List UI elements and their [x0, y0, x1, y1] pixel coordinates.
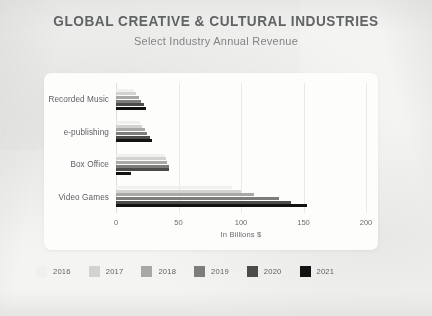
bar-group: Video Games — [116, 181, 366, 214]
legend-swatch — [89, 266, 100, 277]
legend-item[interactable]: 2019 — [194, 266, 229, 277]
bar — [116, 92, 136, 95]
bar — [116, 172, 131, 175]
bar — [116, 96, 139, 99]
legend-swatch — [36, 266, 47, 277]
bar — [116, 128, 145, 131]
legend-item[interactable]: 2021 — [300, 266, 335, 277]
category-label: e-publishing — [64, 127, 109, 136]
x-axis-label: In Billions $ — [116, 230, 366, 239]
bar — [116, 165, 169, 168]
bar — [116, 161, 167, 164]
legend-label: 2018 — [158, 267, 176, 276]
bar — [116, 186, 232, 189]
plot-area: Recorded Musice-publishingBox OfficeVide… — [116, 83, 366, 213]
chart-heading: GLOBAL CREATIVE & CULTURAL INDUSTRIES Se… — [0, 12, 432, 47]
chart-subtitle: Select Industry Annual Revenue — [0, 35, 432, 47]
legend-swatch — [247, 266, 258, 277]
bar — [116, 190, 241, 193]
legend-swatch — [194, 266, 205, 277]
bar — [116, 100, 141, 103]
legend-item[interactable]: 2018 — [141, 266, 176, 277]
category-label: Recorded Music — [48, 95, 109, 104]
legend-swatch — [300, 266, 311, 277]
legend-label: 2019 — [211, 267, 229, 276]
legend-label: 2021 — [317, 267, 335, 276]
legend-label: 2017 — [106, 267, 124, 276]
x-tick-label: 200 — [360, 218, 373, 227]
bar — [116, 157, 166, 160]
chart-title: GLOBAL CREATIVE & CULTURAL INDUSTRIES — [26, 12, 406, 30]
gridline — [366, 83, 367, 213]
chart-legend: 201620172018201920202021 — [36, 263, 396, 279]
bar — [116, 204, 307, 207]
bar-group: e-publishing — [116, 116, 366, 149]
category-label: Box Office — [70, 160, 109, 169]
x-axis-ticks: 050100150200 — [116, 218, 366, 230]
bar — [116, 132, 147, 135]
bar-group: Recorded Music — [116, 83, 366, 116]
bar — [116, 89, 134, 92]
x-tick-label: 50 — [174, 218, 182, 227]
bar — [116, 201, 291, 204]
bar — [116, 121, 140, 124]
legend-swatch — [141, 266, 152, 277]
bar — [116, 193, 254, 196]
legend-label: 2016 — [53, 267, 71, 276]
bar — [116, 107, 146, 110]
bar — [116, 125, 142, 128]
bar-group: Box Office — [116, 148, 366, 181]
bar — [116, 154, 165, 157]
legend-item[interactable]: 2017 — [89, 266, 124, 277]
x-tick-label: 0 — [114, 218, 118, 227]
bar — [116, 136, 150, 139]
bar — [116, 139, 152, 142]
category-label: Video Games — [58, 192, 109, 201]
bar — [116, 168, 169, 171]
legend-label: 2020 — [264, 267, 282, 276]
legend-item[interactable]: 2020 — [247, 266, 282, 277]
chart-card: Recorded Musice-publishingBox OfficeVide… — [44, 73, 378, 250]
bar — [116, 103, 144, 106]
legend-item[interactable]: 2016 — [36, 266, 71, 277]
x-tick-label: 150 — [297, 218, 310, 227]
x-tick-label: 100 — [235, 218, 248, 227]
bar — [116, 197, 279, 200]
